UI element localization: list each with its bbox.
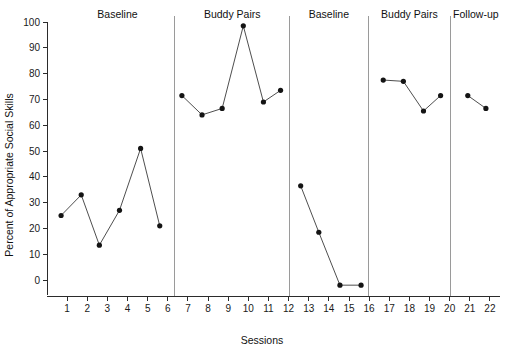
x-tick-label-13: 13 [303, 303, 315, 314]
x-tick-label-5: 5 [145, 303, 151, 314]
x-tick-label-10: 10 [243, 303, 255, 314]
x-tick-label-9: 9 [225, 303, 231, 314]
data-point-p3-1 [298, 183, 303, 188]
data-point-p4-3 [421, 108, 426, 113]
y-tick-label-0: 0 [34, 275, 40, 286]
data-point-p3-4 [358, 283, 363, 288]
x-tick-label-22: 22 [484, 303, 496, 314]
phase-label-5: Follow-up [453, 8, 499, 20]
x-tick-label-14: 14 [323, 303, 335, 314]
y-axis-title: Percent of Appropriate Social Skills [3, 93, 15, 256]
x-tick-label-6: 6 [165, 303, 171, 314]
x-tick-label-15: 15 [343, 303, 355, 314]
x-axis-title: Sessions [241, 334, 284, 346]
x-tick-label-21: 21 [464, 303, 476, 314]
data-point-p2-1 [179, 93, 184, 98]
chart-background [0, 0, 522, 351]
x-tick-label-16: 16 [364, 303, 376, 314]
data-point-p2-6 [278, 88, 283, 93]
x-tick-label-3: 3 [105, 303, 111, 314]
x-tick-label-7: 7 [185, 303, 191, 314]
data-point-p2-2 [199, 112, 204, 117]
y-tick-label-30: 30 [29, 197, 41, 208]
data-point-p2-4 [241, 23, 246, 28]
data-point-p1-5 [138, 146, 143, 151]
x-tick-label-12: 12 [283, 303, 295, 314]
x-tick-label-20: 20 [444, 303, 456, 314]
x-tick-label-18: 18 [404, 303, 416, 314]
data-point-p4-4 [438, 93, 443, 98]
phase-label-4: Buddy Pairs [381, 8, 438, 20]
data-point-p1-1 [58, 213, 63, 218]
data-point-p1-6 [157, 223, 162, 228]
data-point-p4-1 [381, 77, 386, 82]
data-point-p1-2 [79, 192, 84, 197]
data-point-p4-2 [401, 79, 406, 84]
x-tick-label-17: 17 [384, 303, 396, 314]
data-point-p2-3 [220, 106, 225, 111]
y-tick-label-100: 100 [23, 17, 40, 28]
y-tick-label-90: 90 [29, 42, 41, 53]
phase-label-1: Baseline [97, 8, 137, 20]
phase-label-3: Baseline [309, 8, 349, 20]
y-tick-label-40: 40 [29, 171, 41, 182]
data-point-p3-3 [337, 283, 342, 288]
x-tick-label-8: 8 [205, 303, 211, 314]
y-tick-label-50: 50 [29, 146, 41, 157]
y-tick-label-80: 80 [29, 68, 41, 79]
data-point-p3-2 [316, 230, 321, 235]
x-tick-label-2: 2 [84, 303, 90, 314]
y-tick-label-20: 20 [29, 223, 41, 234]
data-point-p2-5 [261, 99, 266, 104]
data-point-p1-4 [117, 208, 122, 213]
data-point-p5-2 [483, 106, 488, 111]
y-tick-label-70: 70 [29, 94, 41, 105]
y-tick-label-10: 10 [29, 249, 41, 260]
chart-container: 0102030405060708090100 12345678910111213… [0, 0, 522, 351]
single-subject-line-chart: 0102030405060708090100 12345678910111213… [0, 0, 522, 351]
data-point-p5-1 [465, 93, 470, 98]
y-tick-label-60: 60 [29, 120, 41, 131]
x-tick-label-19: 19 [424, 303, 436, 314]
x-tick-label-4: 4 [125, 303, 131, 314]
x-tick-label-11: 11 [263, 303, 274, 314]
data-point-p1-3 [97, 243, 102, 248]
phase-label-2: Buddy Pairs [204, 8, 261, 20]
x-tick-label-1: 1 [64, 303, 70, 314]
